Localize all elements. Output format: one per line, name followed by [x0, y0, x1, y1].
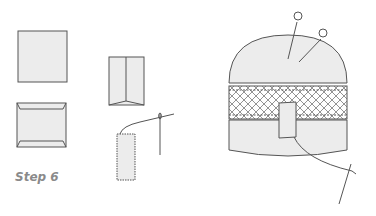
square-fabric-figure — [18, 31, 67, 82]
instruction-diagram: Step 6 — [0, 0, 376, 216]
pin-head-icon — [319, 29, 327, 37]
folded-edges-figure — [17, 103, 66, 147]
step-label: Step 6 — [15, 170, 59, 184]
pin-head-icon — [294, 12, 302, 20]
folded-center-figure — [109, 57, 144, 105]
pincushion-figure — [229, 12, 356, 204]
stitched-strip-figure — [117, 113, 174, 180]
needle-icon — [339, 164, 351, 204]
